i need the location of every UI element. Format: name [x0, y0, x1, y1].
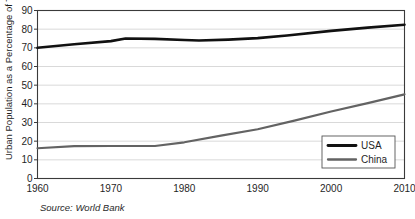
chart-container: 0102030405060708090 19601970198019902000…: [0, 0, 415, 219]
y-tick-label: 10: [21, 154, 33, 165]
y-axis-tick-labels: 0102030405060708090: [21, 5, 37, 184]
x-tick-label: 1980: [173, 183, 196, 194]
y-tick-label: 50: [21, 80, 33, 91]
x-axis-tick-labels: 196019701980199020002010: [26, 183, 415, 194]
series-line-usa: [38, 25, 405, 48]
y-tick-label: 40: [21, 98, 33, 109]
source-note: Source: World Bank: [40, 202, 126, 213]
y-axis-title: Urban Population as a Percentage of Tota…: [3, 0, 14, 160]
x-tick-label: 1990: [247, 183, 270, 194]
y-tick-label: 20: [21, 136, 33, 147]
legend-label-china[interactable]: China: [361, 154, 388, 165]
y-tick-label: 90: [21, 5, 33, 16]
x-tick-label: 1970: [100, 183, 123, 194]
y-tick-label: 70: [21, 42, 33, 53]
y-tick-label: 30: [21, 117, 33, 128]
y-tick-label: 80: [21, 24, 33, 35]
x-tick-label: 1960: [26, 183, 49, 194]
line-chart: 0102030405060708090 19601970198019902000…: [0, 0, 415, 219]
y-tick-label: 60: [21, 61, 33, 72]
x-tick-label: 2010: [393, 183, 415, 194]
chart-legend[interactable]: USAChina: [322, 136, 395, 168]
series-group: [38, 25, 405, 149]
legend-label-usa[interactable]: USA: [361, 140, 382, 151]
x-tick-label: 2000: [320, 183, 343, 194]
